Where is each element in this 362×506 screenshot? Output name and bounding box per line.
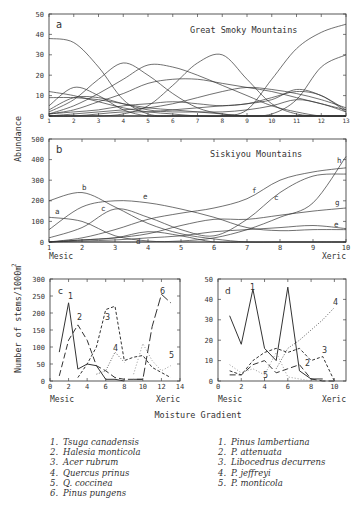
panel-title: Great Smoky Mountains [190,25,297,35]
mesic-label: Mesic [50,395,74,404]
legend-item: 2.P. attenuata [218,447,325,457]
curve-label: c [274,193,279,202]
series-label: 6 [160,287,165,296]
y-tick-label: 20 [205,337,213,345]
legend-item: 1.Pinus lambertiana [218,437,325,447]
x-tick-label: 12 [318,117,326,124]
curve-label: c [101,204,106,213]
series-label: 2 [77,313,82,322]
y-tick-label: 40 [36,31,44,39]
x-tick-label: 8 [220,117,224,124]
x-tick-label: 6 [286,383,290,391]
y-tick-label: 500 [31,136,44,144]
series-label: 3 [105,313,110,322]
mesic-label: Mesic [218,395,242,404]
x-tick-label: 1 [47,244,51,252]
y-tick-label: 300 [31,177,44,185]
y-tick-label: 0 [40,239,44,247]
series-line [49,55,346,116]
panel-c: 05010015020025030002468101214cMesicXeric… [32,276,184,405]
x-tick-label: 0 [216,383,220,391]
legend-item: 4.Quercus prinus [50,468,141,478]
series-label: 2 [305,359,310,368]
x-tick-label: 0 [48,383,52,391]
x-tick-label: 13 [342,117,350,124]
x-tick-label: 2 [66,383,70,391]
legend-item: 2.Halesia monticola [50,447,141,457]
x-tick-label: 7 [196,117,200,124]
series-line [49,168,346,242]
x-tick-label: 10 [342,244,350,252]
y-tick-label: 30 [205,316,213,324]
y-tick-label: 10 [205,357,213,365]
series-line [49,38,346,116]
x-tick-label: 1 [47,117,51,124]
x-tick-label: 10 [139,383,147,391]
x-tick-label: 2 [239,383,243,391]
x-tick-label: 4 [146,244,150,252]
series-label: 4 [333,298,338,307]
x-tick-label: 2 [72,117,76,124]
x-tick-label: 10 [330,383,338,391]
series-line [59,325,143,379]
y-tick-label: 100 [32,344,45,352]
series-line [49,157,346,243]
legend-item: 6.Pinus pungens [50,488,141,498]
y-axis-title-abundance: Abundance [13,116,23,162]
y-tick-label: 100 [31,218,44,226]
series-label: 5 [263,371,268,380]
x-tick-label: 2 [80,244,84,252]
curve-label: a [55,207,60,216]
y-axis-title-superscript: 2 [10,263,17,267]
y-tick-label: 0 [40,113,44,121]
curve-label: b [82,183,87,192]
x-tick-label: 6 [171,117,175,124]
y-tick-label: 0 [209,378,213,386]
y-tick-label: 300 [32,276,45,284]
legend-item: 3.Acer rubrum [50,457,141,467]
y-tick-label: 50 [37,361,45,369]
xeric-label: Xeric [322,252,346,261]
curve-label: f [252,186,257,195]
panel-b: 010020030040050012345678910bSiskiyou Mou… [31,136,350,262]
series-line [134,294,171,379]
legend-left: 1.Tsuga canadensis 2.Halesia monticola 3… [50,437,141,498]
panel-d: 010203040500246810dMesicXeric12345 [205,276,347,405]
series-label: 4 [113,344,118,353]
panel-title: Siskiyou Mountains [210,149,302,159]
series-line [134,344,171,375]
y-tick-label: 40 [205,296,213,304]
x-tick-label: 4 [121,117,125,124]
xeric-label: Xeric [322,395,346,404]
x-tick-label: 10 [268,117,276,124]
mesic-label: Mesic [49,252,73,261]
panel-label: b [56,144,62,155]
series-line [78,306,171,377]
series-label: 1 [68,292,73,301]
series-label: 3 [322,346,327,355]
curve-label: e [334,220,339,229]
x-tick-label: 7 [245,244,249,252]
x-tick-label: 3 [97,117,101,124]
legend-item: 5.P. monticola [218,478,325,488]
figure-canvas: 0102030405012345678910111213aGreat Smoky… [0,0,362,506]
x-tick-label: 4 [262,383,266,391]
x-tick-label: 5 [179,244,183,252]
panel-label: c [58,286,63,296]
y-tick-label: 20 [36,72,44,80]
x-tick-label: 3 [113,244,117,252]
series-line [49,24,346,116]
x-tick-label: 8 [122,383,126,391]
curve-label: e [143,192,148,201]
series-line [49,54,346,116]
legend-item: 3.Libocedrus decurrens [218,457,325,467]
series-label: 5 [169,351,174,360]
y-tick-label: 0 [41,378,45,386]
y-axis-title-stems: Number of stems/1000m [13,266,23,373]
x-axis-title: Moisture Gradient [155,410,242,420]
y-tick-label: 200 [31,197,44,205]
y-tick-label: 200 [32,310,45,318]
y-tick-label: 50 [205,276,213,284]
series-line [49,64,346,116]
y-tick-label: 250 [32,293,45,301]
